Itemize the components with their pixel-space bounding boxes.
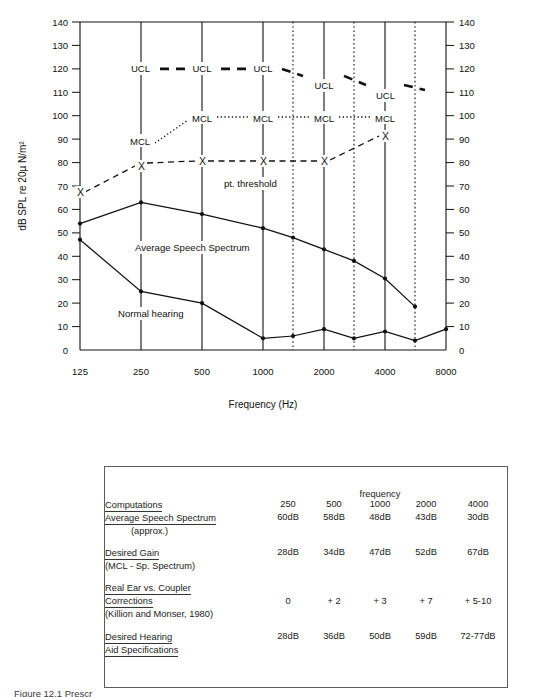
col-header-1000: 1000 [357, 499, 403, 512]
correction-2000: + 7 [403, 572, 449, 620]
row-label-corrections: Corrections [105, 596, 153, 608]
mcl-label-4000: MCL [375, 113, 395, 124]
y-tick-left-50: 50 [57, 227, 68, 238]
x-tick-8000: 8000 [435, 366, 456, 377]
threshold-x-4000: X [382, 130, 389, 142]
y-tick-left-110: 110 [53, 87, 68, 98]
avg-speech-4000: 30dB [449, 512, 507, 537]
y-tick-left-20: 20 [57, 298, 68, 309]
table-row-desired-hearing-aid-specs: Desired Hearing Aid Specifications 28dB … [105, 620, 507, 657]
x-tick-4000: 4000 [374, 366, 395, 377]
avg-speech-250: 60dB [265, 512, 311, 537]
row-sublabel-mcl-minus-spectrum: (MCL - Sp. Spectrum) [105, 560, 265, 572]
y-tick-right-110: 110 [459, 87, 474, 98]
table-row-real-ear-corrections: Real Ear vs. Coupler Corrections (Killio… [105, 572, 507, 620]
chart-svg: 140 130 120 110 100 90 80 70 60 50 40 30… [0, 0, 560, 460]
table-row-desired-gain: Desired Gain (MCL - Sp. Spectrum) 28dB 3… [105, 537, 507, 572]
x-tick-500: 500 [194, 366, 210, 377]
avg-speech-2000: 43dB [403, 512, 449, 537]
threshold-x-1000: X [260, 155, 267, 167]
y-tick-left-130: 130 [52, 40, 68, 51]
x-tick-1000: 1000 [252, 366, 273, 377]
correction-500: + 2 [311, 572, 357, 620]
y-tick-right-50: 50 [459, 227, 470, 238]
x-tick-2000: 2000 [313, 366, 334, 377]
desired-gain-500: 34dB [311, 537, 357, 572]
row-label-real-ear-coupler: Real Ear vs. Coupler [105, 583, 191, 595]
desired-gain-1000: 47dB [357, 537, 403, 572]
x-axis-title: Frequency (Hz) [229, 399, 298, 410]
col-header-500: 500 [311, 499, 357, 512]
y-tick-left-30: 30 [57, 274, 68, 285]
y-tick-right-100: 100 [459, 110, 475, 121]
y-tick-right-140: 140 [459, 17, 475, 28]
table-header-freq-row: frequency [105, 467, 507, 499]
pt-threshold-annotation: pt. threshold [224, 178, 277, 189]
threshold-x-2000: X [321, 155, 328, 167]
series-pt-threshold: X X X X X X pt. threshold [75, 130, 391, 198]
series-ucl: UCL UCL UCL UCL UCL [126, 62, 425, 102]
y-axis-title: dB SPL re 20µ N/m² [17, 141, 28, 231]
desired-spec-250: 28dB [265, 620, 311, 657]
y-tick-left-40: 40 [57, 251, 68, 262]
row-sublabel-killion-monser: (Killion and Monser, 1980) [105, 608, 265, 620]
computations-table-panel: frequency Computations 250 500 1000 2000… [104, 466, 508, 688]
y-tick-left-100: 100 [52, 110, 68, 121]
y-tick-right-80: 80 [459, 157, 470, 168]
ucl-label-4000: UCL [376, 90, 395, 101]
col-header-4000: 4000 [449, 499, 507, 512]
row-label-desired-hearing: Desired Hearing [105, 632, 172, 644]
correction-1000: + 3 [357, 572, 403, 620]
desired-gain-4000: 67dB [449, 537, 507, 572]
mcl-label-500: MCL [192, 113, 212, 124]
series-average-speech-spectrum: Average Speech Spectrum [78, 200, 417, 308]
ucl-label-500: UCL [192, 63, 211, 74]
desired-spec-4000: 72-77dB [449, 620, 507, 657]
y-tick-right-90: 90 [459, 134, 470, 145]
y-tick-right-20: 20 [459, 298, 470, 309]
computations-table: frequency Computations 250 500 1000 2000… [105, 467, 507, 657]
mcl-label-1000: MCL [253, 113, 273, 124]
col-header-250: 250 [265, 499, 311, 512]
threshold-x-500: X [199, 155, 206, 167]
y-tick-left-80: 80 [57, 157, 68, 168]
desired-gain-250: 28dB [265, 537, 311, 572]
mcl-label-250: MCL [130, 136, 150, 147]
avg-speech-1000: 48dB [357, 512, 403, 537]
y-tick-left-70: 70 [57, 181, 68, 192]
x-tick-125: 125 [72, 366, 88, 377]
row-sublabel-approx: (approx.) [105, 525, 265, 537]
y-tick-right-0: 0 [459, 345, 464, 356]
x-axis-labels: 125 250 500 1000 2000 4000 8000 [72, 366, 457, 377]
col-header-2000: 2000 [403, 499, 449, 512]
ucl-label-1000: UCL [253, 63, 272, 74]
y-tick-left-90: 90 [57, 134, 68, 145]
threshold-x-125: X [77, 186, 84, 198]
table-row-average-speech-spectrum: Average Speech Spectrum (approx.) 60dB 5… [105, 512, 507, 537]
row-label-aid-specifications: Aid Specifications [105, 645, 178, 657]
y-tick-right-30: 30 [459, 274, 470, 285]
y-tick-left-140: 140 [52, 17, 68, 28]
desired-spec-1000: 50dB [357, 620, 403, 657]
x-tick-250: 250 [133, 366, 149, 377]
y-tick-right-130: 130 [459, 40, 475, 51]
row-label-avg-speech-spectrum: Average Speech Spectrum [105, 513, 216, 525]
figure-caption: Figure 12.1 Prescr [14, 688, 554, 697]
correction-4000: + 5-10 [449, 572, 507, 620]
y-tick-left-0: 0 [63, 345, 68, 356]
table-row-computations: Computations 250 500 1000 2000 4000 [105, 499, 507, 512]
table-freq-group-header: frequency [357, 467, 403, 499]
y-tick-left-120: 120 [52, 63, 68, 74]
ucl-label-250: UCL [131, 63, 150, 74]
mcl-label-2000: MCL [314, 113, 334, 124]
y-tick-right-120: 120 [459, 63, 475, 74]
y-axis-right: 140 130 120 110 100 90 80 70 60 50 40 30… [446, 17, 475, 356]
y-tick-right-70: 70 [459, 181, 470, 192]
normal-hearing-annotation: Normal hearing [118, 308, 184, 319]
y-tick-right-10: 10 [459, 321, 470, 332]
desired-gain-2000: 52dB [403, 537, 449, 572]
y-tick-right-60: 60 [459, 204, 470, 215]
row-label-desired-gain: Desired Gain [105, 548, 159, 560]
threshold-x-250: X [138, 160, 145, 172]
y-tick-right-40: 40 [459, 251, 470, 262]
